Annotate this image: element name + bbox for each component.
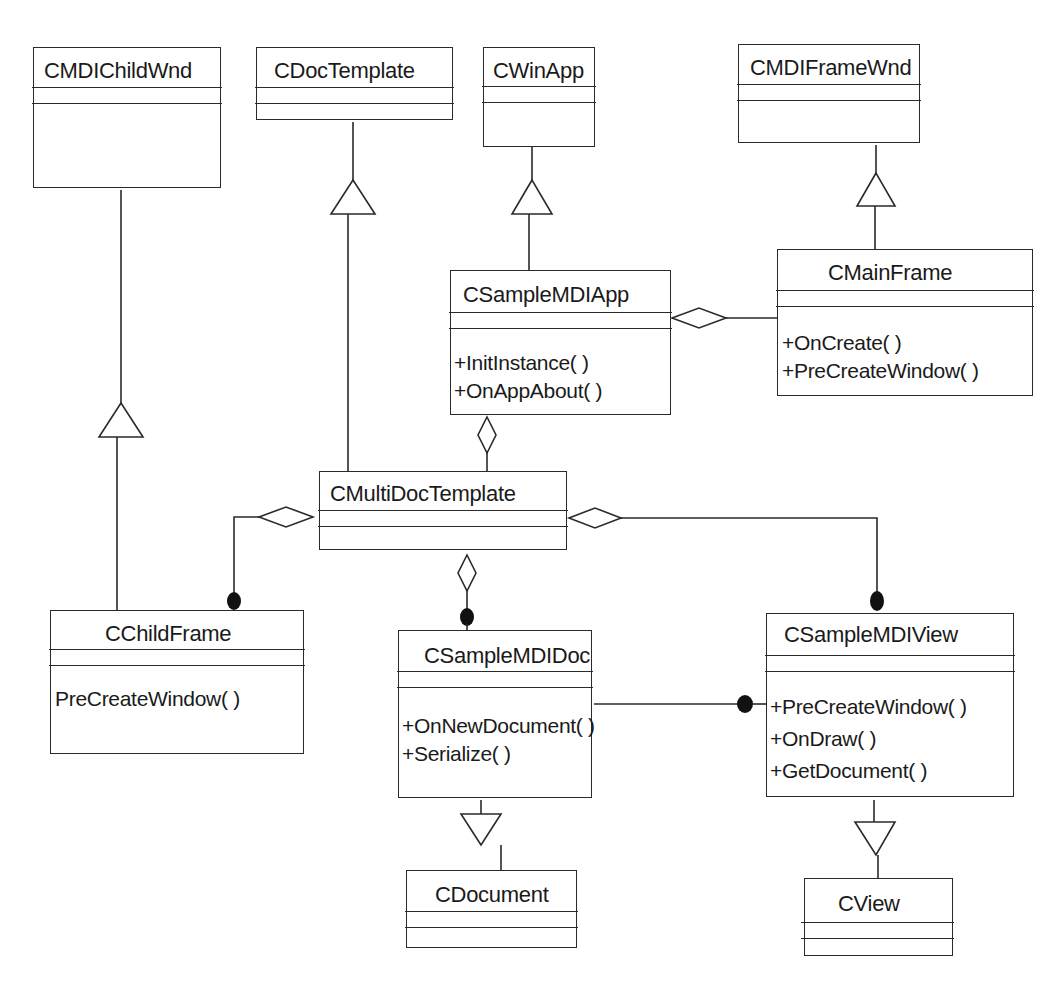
association-csamplemdidoc-csamplemdiview: [594, 695, 766, 713]
operation-ondraw: +OnDraw( ): [770, 723, 1013, 755]
class-cmdiframewnd[interactable]: CMDIFrameWnd: [738, 44, 920, 143]
aggregation-cmultidoctemplate-cchildframe: [227, 507, 313, 610]
operations-separator: [32, 103, 222, 104]
operations-separator: [776, 306, 1034, 307]
class-name: CSampleMDIApp: [463, 282, 670, 308]
operations-separator: [405, 927, 578, 928]
class-cmultidoctemplate[interactable]: CMultiDocTemplate: [319, 471, 567, 550]
attributes-separator: [405, 911, 578, 912]
class-cchildframe[interactable]: CChildFrame PreCreateWindow( ): [50, 610, 304, 754]
generalization-csamplemdidoc-cdocument: [461, 800, 501, 870]
class-cmdichildwnd[interactable]: CMDIChildWnd: [33, 47, 221, 188]
operations-separator: [737, 100, 921, 101]
class-cmainframe[interactable]: CMainFrame +OnCreate( ) +PreCreateWindow…: [777, 249, 1033, 396]
class-csamplemdidoc[interactable]: CSampleMDIDoc +OnNewDocument( ) +Seriali…: [398, 630, 592, 798]
attributes-separator: [49, 649, 305, 650]
operations-list: PreCreateWindow( ): [55, 685, 303, 713]
generalization-cchildframe-cmdichildwnd: [99, 190, 143, 610]
operations-list: +OnNewDocument( ) +Serialize( ): [402, 712, 591, 768]
attributes-separator: [449, 312, 672, 313]
generalization-cmainframe-cmdiframewnd: [857, 145, 895, 249]
operation-precreatewindow: +PreCreateWindow( ): [770, 691, 1013, 723]
class-name: CMDIFrameWnd: [750, 55, 919, 81]
class-name: CMultiDocTemplate: [330, 481, 566, 507]
operations-separator: [482, 102, 596, 103]
attributes-separator: [737, 84, 921, 85]
attributes-separator: [318, 510, 568, 511]
class-cdocument[interactable]: CDocument: [406, 870, 577, 948]
operation-oncreate: +OnCreate( ): [782, 329, 1032, 357]
generalization-csamplemdiapp-cwinapp: [512, 146, 552, 270]
class-name: CView: [838, 891, 952, 917]
generalization-csamplemdiview-cview: [855, 800, 895, 878]
operation-precreatewindow: PreCreateWindow( ): [55, 685, 303, 713]
operations-separator: [49, 665, 305, 666]
attributes-separator: [397, 671, 593, 672]
class-name: CDocument: [435, 882, 576, 908]
operations-separator: [255, 103, 454, 104]
operation-getdocument: +GetDocument( ): [770, 755, 1013, 787]
attributes-separator: [255, 87, 454, 88]
attributes-separator: [482, 86, 596, 87]
aggregation-csamplemdiapp-cmultidoctemplate: [478, 417, 496, 471]
aggregation-cmultidoctemplate-csamplemdiview: [569, 508, 884, 611]
operations-separator: [397, 687, 593, 688]
class-name: CDocTemplate: [274, 58, 452, 84]
attributes-separator: [801, 922, 954, 923]
operations-list: +InitInstance( ) +OnAppAbout( ): [454, 349, 670, 405]
operations-separator: [318, 526, 568, 527]
class-cwinapp[interactable]: CWinApp: [483, 47, 595, 147]
operation-onnewdocument: +OnNewDocument( ): [402, 712, 591, 740]
operation-serialize: +Serialize( ): [402, 740, 591, 768]
aggregation-csamplemdiapp-cmainframe: [672, 308, 777, 328]
class-csamplemdiapp[interactable]: CSampleMDIApp +InitInstance( ) +OnAppAbo…: [450, 270, 671, 415]
operation-onappabout: +OnAppAbout( ): [454, 377, 670, 405]
class-name: CSampleMDIDoc: [424, 643, 591, 669]
operations-separator: [801, 938, 954, 939]
class-cview[interactable]: CView: [804, 878, 953, 956]
class-name: CSampleMDIView: [784, 622, 1013, 648]
class-name: CMDIChildWnd: [44, 58, 220, 84]
class-cdoctemplate[interactable]: CDocTemplate: [256, 47, 453, 120]
operations-list: +OnCreate( ) +PreCreateWindow( ): [782, 329, 1032, 385]
class-name: CChildFrame: [105, 621, 303, 647]
class-csamplemdiview[interactable]: CSampleMDIView +PreCreateWindow( ) +OnDr…: [766, 613, 1014, 797]
operations-separator: [765, 671, 1015, 672]
attributes-separator: [776, 290, 1034, 291]
operations-separator: [449, 328, 672, 329]
class-name: CMainFrame: [828, 260, 1032, 286]
class-name: CWinApp: [493, 58, 594, 84]
attributes-separator: [32, 87, 222, 88]
operation-precreatewindow: +PreCreateWindow( ): [782, 357, 1032, 385]
generalization-cmultidoctemplate-cdoctemplate: [331, 122, 375, 471]
attributes-separator: [765, 655, 1015, 656]
operations-list: +PreCreateWindow( ) +OnDraw( ) +GetDocum…: [770, 691, 1013, 787]
operation-initinstance: +InitInstance( ): [454, 349, 670, 377]
aggregation-cmultidoctemplate-csamplemdidoc: [458, 555, 476, 630]
